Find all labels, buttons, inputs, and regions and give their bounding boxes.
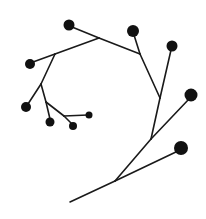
stem-line [140, 54, 160, 98]
stem-line [55, 38, 99, 54]
flower-node [46, 118, 55, 127]
stem-line [64, 115, 88, 116]
flower-node [174, 141, 188, 155]
stem-line [115, 151, 178, 181]
stem-group [28, 27, 189, 202]
flower-node [69, 122, 77, 130]
flower-node [64, 20, 75, 31]
inflorescence-diagram [0, 0, 206, 219]
flower-node [21, 102, 31, 112]
stem-line [28, 84, 41, 104]
stem-line [70, 181, 115, 202]
flower-node [127, 25, 139, 37]
stem-line [134, 35, 140, 54]
stem-line [72, 27, 99, 38]
stem-line [99, 38, 140, 54]
stem-line [115, 139, 151, 181]
flower-node [86, 112, 93, 119]
stem-line [151, 98, 160, 139]
stem-line [151, 99, 189, 139]
flower-node [25, 59, 35, 69]
flower-node [185, 89, 198, 102]
stem-line [41, 84, 46, 102]
flower-group [21, 20, 198, 156]
stem-line [160, 50, 171, 98]
flower-node [167, 41, 178, 52]
